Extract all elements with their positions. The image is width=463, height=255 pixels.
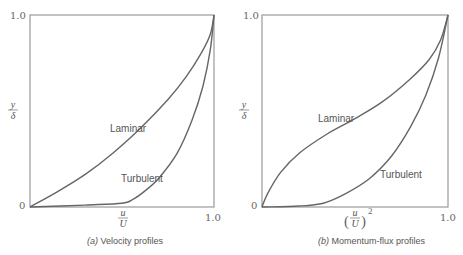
laminar-label: Laminar xyxy=(110,123,147,134)
svg-text:(b) Momentum-flux profiles: (b) Momentum-flux profiles xyxy=(318,236,426,246)
turbulent-label: Turbulent xyxy=(121,173,163,184)
caption: (a) Velocity profiles xyxy=(87,236,164,246)
svg-text:(a) Velocity profiles: (a) Velocity profiles xyxy=(87,236,164,246)
svg-text:u: u xyxy=(121,207,126,218)
svg-text:U: U xyxy=(119,218,127,229)
svg-text:δ: δ xyxy=(11,110,16,121)
svg-text:y: y xyxy=(10,99,16,110)
x-tick-end: 1.0 xyxy=(205,212,221,223)
laminar-label: Laminar xyxy=(318,113,355,124)
y-axis-label: y δ xyxy=(239,99,249,121)
y-tick-zero: 0 xyxy=(251,200,257,211)
svg-text:(: ( xyxy=(344,213,349,230)
turbulent-label: Turbulent xyxy=(380,169,422,180)
x-tick-end: 1.0 xyxy=(440,212,456,223)
svg-text:U: U xyxy=(351,218,359,229)
figure: 1.0 0 1.0 y δ u U Laminar Turbulent (a) … xyxy=(0,0,463,255)
y-tick-zero: 0 xyxy=(19,200,25,211)
x-axis-label: u U xyxy=(118,207,128,229)
y-tick-top: 1.0 xyxy=(10,10,26,21)
panel-velocity-profiles: 1.0 0 1.0 y δ u U Laminar Turbulent (a) … xyxy=(8,10,221,246)
y-axis-label: y δ xyxy=(8,99,18,121)
svg-text:δ: δ xyxy=(242,110,247,121)
caption: (b) Momentum-flux profiles xyxy=(318,236,426,246)
y-tick-top: 1.0 xyxy=(243,10,259,21)
panel-momentum-flux-profiles: 1.0 0 1.0 y δ ( u U ) 2 Laminar Turbulen… xyxy=(239,10,456,246)
svg-text:2: 2 xyxy=(368,206,373,216)
svg-text:y: y xyxy=(241,99,247,110)
svg-text:): ) xyxy=(361,213,366,230)
x-axis-label: ( u U ) 2 xyxy=(344,206,373,230)
svg-text:u: u xyxy=(353,207,358,218)
